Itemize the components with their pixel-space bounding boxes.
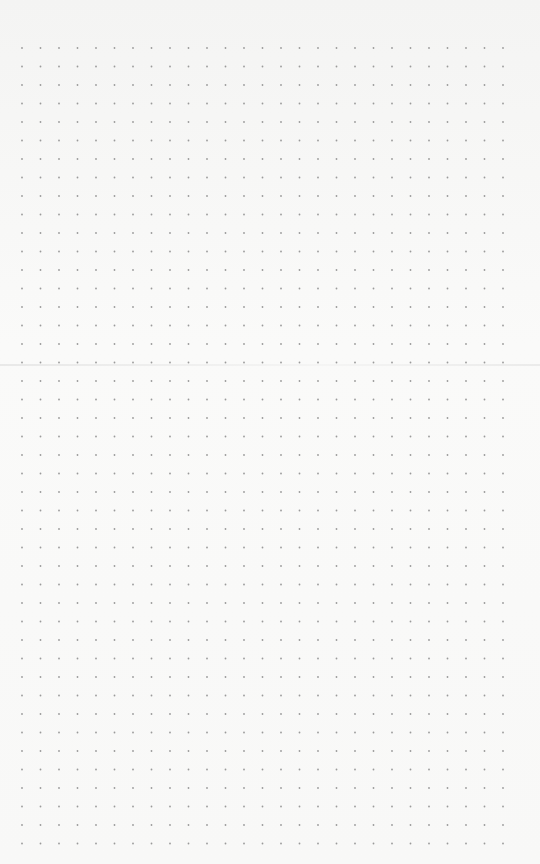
grid-dot <box>336 528 338 530</box>
grid-dot <box>114 602 116 604</box>
grid-dot <box>188 787 190 789</box>
grid-dot <box>58 491 60 493</box>
grid-dot <box>373 787 375 789</box>
grid-dot <box>280 510 282 512</box>
grid-dot <box>299 695 301 697</box>
grid-dot <box>299 843 301 845</box>
grid-dot <box>206 565 208 567</box>
grid-dot <box>188 732 190 734</box>
grid-dot <box>391 306 393 308</box>
grid-dot <box>188 288 190 290</box>
grid-dot <box>336 695 338 697</box>
grid-dot <box>262 621 264 623</box>
grid-dot <box>58 140 60 142</box>
grid-dot <box>243 325 245 327</box>
grid-dot <box>354 676 356 678</box>
grid-dot <box>206 66 208 68</box>
grid-dot <box>502 362 504 364</box>
grid-dot <box>447 306 449 308</box>
grid-dot <box>114 84 116 86</box>
grid-dot <box>391 195 393 197</box>
grid-dot <box>280 787 282 789</box>
grid-dot <box>58 121 60 123</box>
grid-dot <box>280 399 282 401</box>
grid-dot <box>465 214 467 216</box>
grid-dot <box>132 528 134 530</box>
grid-dot <box>151 639 153 641</box>
grid-dot <box>206 343 208 345</box>
grid-dot <box>225 140 227 142</box>
grid-dot <box>206 473 208 475</box>
grid-dot <box>206 84 208 86</box>
grid-dot <box>280 732 282 734</box>
grid-dot <box>317 195 319 197</box>
grid-dot <box>151 195 153 197</box>
grid-dot <box>151 103 153 105</box>
grid-dot <box>410 843 412 845</box>
grid-dot <box>206 584 208 586</box>
grid-dot <box>299 454 301 456</box>
grid-dot <box>354 158 356 160</box>
grid-dot <box>77 158 79 160</box>
grid-dot <box>354 306 356 308</box>
grid-dot <box>151 436 153 438</box>
grid-dot <box>354 602 356 604</box>
grid-dot <box>447 195 449 197</box>
grid-dot <box>317 177 319 179</box>
grid-dot <box>502 547 504 549</box>
grid-dot <box>336 732 338 734</box>
grid-dot <box>336 103 338 105</box>
grid-dot <box>317 454 319 456</box>
grid-dot <box>188 140 190 142</box>
grid-dot <box>299 676 301 678</box>
grid-dot <box>132 306 134 308</box>
grid-dot <box>225 177 227 179</box>
grid-dot <box>21 824 23 826</box>
grid-dot <box>410 214 412 216</box>
grid-dot <box>114 325 116 327</box>
grid-dot <box>95 695 97 697</box>
grid-dot <box>206 732 208 734</box>
grid-dot <box>77 510 79 512</box>
grid-dot <box>225 584 227 586</box>
grid-dot <box>354 140 356 142</box>
grid-dot <box>502 843 504 845</box>
grid-dot <box>373 658 375 660</box>
grid-dot <box>132 343 134 345</box>
grid-dot <box>40 343 42 345</box>
grid-dot <box>373 306 375 308</box>
grid-dot <box>114 769 116 771</box>
grid-dot <box>77 491 79 493</box>
grid-dot <box>447 713 449 715</box>
grid-dot <box>280 288 282 290</box>
grid-dot <box>447 417 449 419</box>
grid-dot <box>95 843 97 845</box>
grid-dot <box>95 417 97 419</box>
grid-dot <box>428 251 430 253</box>
grid-dot <box>391 214 393 216</box>
grid-dot <box>225 66 227 68</box>
grid-dot <box>262 473 264 475</box>
grid-dot <box>169 66 171 68</box>
grid-dot <box>114 103 116 105</box>
grid-dot <box>169 121 171 123</box>
grid-dot <box>502 325 504 327</box>
grid-dot <box>95 195 97 197</box>
grid-dot <box>280 269 282 271</box>
grid-dot <box>465 362 467 364</box>
grid-dot <box>447 214 449 216</box>
grid-dot <box>428 214 430 216</box>
grid-dot <box>428 269 430 271</box>
grid-dot <box>391 177 393 179</box>
grid-dot <box>169 473 171 475</box>
grid-dot <box>95 491 97 493</box>
grid-dot <box>58 325 60 327</box>
grid-dot <box>206 621 208 623</box>
grid-dot <box>243 732 245 734</box>
grid-dot <box>465 417 467 419</box>
grid-dot <box>151 732 153 734</box>
grid-dot <box>114 140 116 142</box>
grid-dot <box>317 602 319 604</box>
grid-dot <box>410 158 412 160</box>
grid-dot <box>95 621 97 623</box>
